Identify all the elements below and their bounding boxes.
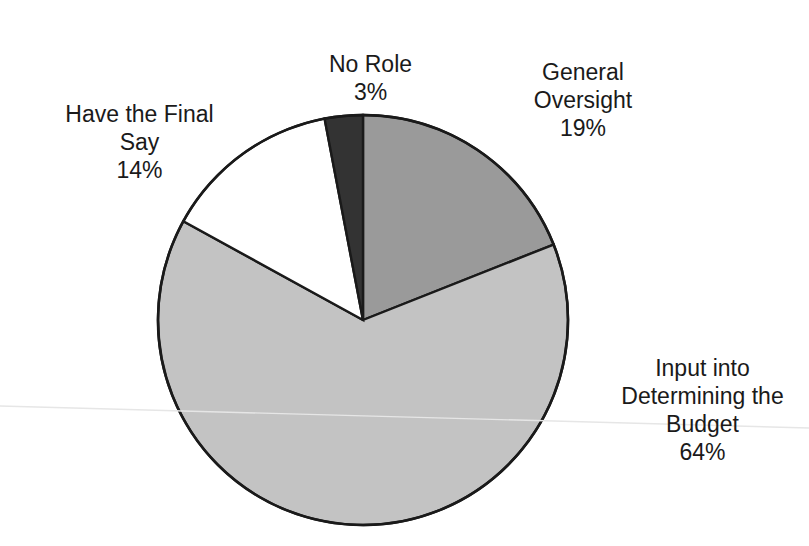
- slice-label-input-budget-name: Input into Determining the Budget: [621, 355, 783, 437]
- slice-label-general-oversight-percent: 19%: [488, 114, 678, 142]
- slice-label-have-final-say: Have the Final Say 14%: [22, 72, 257, 212]
- slice-label-no-role-name: No Role: [329, 51, 412, 77]
- slice-label-input-budget-percent: 64%: [596, 438, 809, 466]
- slice-label-have-final-say-percent: 14%: [22, 156, 257, 184]
- slice-label-no-role: No Role 3%: [278, 22, 463, 134]
- chart-canvas: No Role 3% General Oversight 19% Have th…: [0, 0, 809, 546]
- slice-label-input-budget: Input into Determining the Budget 64%: [596, 326, 809, 494]
- slice-label-have-final-say-name: Have the Final Say: [65, 101, 213, 155]
- slice-label-general-oversight: General Oversight 19%: [488, 30, 678, 170]
- slice-label-no-role-percent: 3%: [278, 78, 463, 106]
- slice-label-general-oversight-name: General Oversight: [534, 59, 632, 113]
